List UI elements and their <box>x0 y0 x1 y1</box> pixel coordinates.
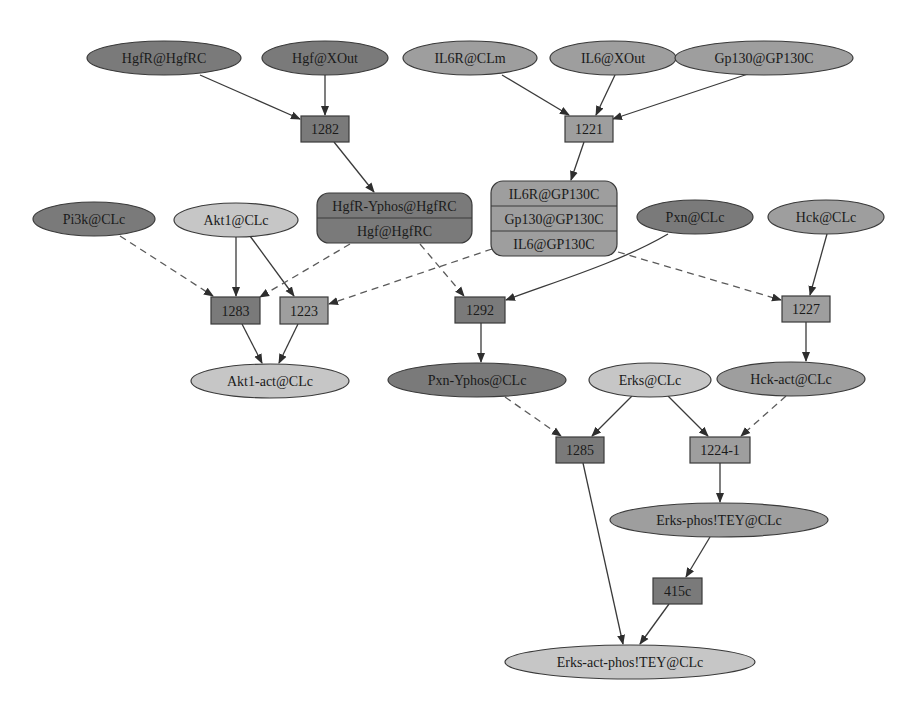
edge-erks-clc-to-1224-1 <box>668 396 708 436</box>
complex-row-label: Hgf@HgfRC <box>357 224 432 239</box>
species-node-erks-clc[interactable]: Erks@CLc <box>589 363 711 397</box>
edge-1282-to-hgfr-yphos-complex <box>334 142 374 192</box>
edge-hck-act-clc-to-1224-1 <box>741 396 786 436</box>
species-node-il6-xout[interactable]: IL6@XOut <box>550 41 676 75</box>
complex-node-hgfr-complex[interactable]: HgfR-Yphos@HgfRCHgf@HgfRC <box>317 193 472 243</box>
species-label: Erks@CLc <box>619 373 682 388</box>
species-node-hgfr-hgfrc[interactable]: HgfR@HgfRC <box>87 41 241 75</box>
edge-gp130-gp130c-to-1221 <box>613 74 748 119</box>
reaction-node-1227[interactable]: 1227 <box>782 296 830 322</box>
edge-1221-to-il6-complex <box>571 142 584 180</box>
node-layer: HgfR@HgfRCHgf@XOutIL6R@CLmIL6@XOutGp130@… <box>33 41 884 679</box>
edge-hgfr-complex-to-1292 <box>420 244 464 296</box>
species-label: HgfR@HgfRC <box>122 51 206 66</box>
reaction-node-1292[interactable]: 1292 <box>455 297 505 323</box>
species-node-hgf-xout[interactable]: Hgf@XOut <box>262 41 388 75</box>
reaction-node-1224-1[interactable]: 1224-1 <box>690 437 750 463</box>
species-node-hck-clc[interactable]: Hck@CLc <box>768 200 884 234</box>
species-node-pi3k-clc[interactable]: Pi3k@CLc <box>33 202 155 236</box>
species-label: Pxn@CLc <box>666 210 725 225</box>
edge-1223-to-akt1-act-clc <box>279 324 298 363</box>
edge-pxn-yphos-clc-to-1285 <box>505 397 561 436</box>
species-node-pxn-yphos-clc[interactable]: Pxn-Yphos@CLc <box>388 363 566 397</box>
complex-row-label: IL6R@GP130C <box>509 187 600 202</box>
species-label: Hgf@XOut <box>292 51 358 66</box>
species-node-erks-phos-tey-clc[interactable]: Erks-phos!TEY@CLc <box>610 503 828 537</box>
reaction-node-1223[interactable]: 1223 <box>280 297 328 324</box>
species-label: Erks-phos!TEY@CLc <box>656 513 782 528</box>
species-node-il6r-clm[interactable]: IL6R@CLm <box>403 41 537 75</box>
edge-pi3k-clc-to-1283 <box>120 236 213 296</box>
species-label: Hck-act@CLc <box>750 372 831 387</box>
reaction-label: 1221 <box>575 122 603 137</box>
reaction-label: 1283 <box>222 304 250 319</box>
species-label: Erks-act-phos!TEY@CLc <box>557 655 704 670</box>
species-node-erks-act-phos-tey-clc[interactable]: Erks-act-phos!TEY@CLc <box>505 645 755 679</box>
species-label: Akt1-act@CLc <box>227 374 313 389</box>
edge-il6-complex-to-1227 <box>618 252 781 300</box>
edge-1285-to-erks-act-phos-tey-clc <box>583 463 623 644</box>
edge-415c-to-erks-act-phos-tey-clc <box>640 604 669 644</box>
edge-akt1-clc-to-1223 <box>250 236 294 296</box>
species-node-hck-act-clc[interactable]: Hck-act@CLc <box>717 362 865 396</box>
species-node-pxn-clc[interactable]: Pxn@CLc <box>637 200 753 234</box>
edge-il6-complex-to-1223 <box>329 249 492 304</box>
complex-row-label: HgfR-Yphos@HgfRC <box>332 199 456 214</box>
reaction-node-1282[interactable]: 1282 <box>301 116 349 142</box>
edge-il6-xout-to-1221 <box>596 75 615 115</box>
reaction-label: 1282 <box>311 122 339 137</box>
edge-layer <box>120 74 827 644</box>
reaction-label: 1224-1 <box>700 443 740 458</box>
reaction-node-1283[interactable]: 1283 <box>211 297 260 324</box>
species-label: Akt1@CLc <box>204 213 269 228</box>
reaction-label: 1223 <box>290 304 318 319</box>
species-label: IL6@XOut <box>581 51 645 66</box>
reaction-label: 1285 <box>566 443 594 458</box>
reaction-label: 415c <box>664 584 691 599</box>
reaction-node-1221[interactable]: 1221 <box>565 116 613 142</box>
edge-erks-clc-to-1285 <box>592 396 632 436</box>
reaction-node-415c[interactable]: 415c <box>653 578 702 604</box>
species-label: Gp130@GP130C <box>714 51 813 66</box>
edge-hck-clc-to-1227 <box>810 234 827 295</box>
edge-hgfr-hgfrc-to-1282 <box>200 75 300 119</box>
complex-node-il6-complex[interactable]: IL6R@GP130CGp130@GP130CIL6@GP130C <box>491 181 617 256</box>
species-node-akt1-act-clc[interactable]: Akt1-act@CLc <box>191 364 349 398</box>
species-node-gp130-gp130c[interactable]: Gp130@GP130C <box>675 41 853 75</box>
species-node-akt1-clc[interactable]: Akt1@CLc <box>174 203 298 237</box>
edge-1283-to-akt1-act-clc <box>242 324 262 363</box>
species-label: Hck@CLc <box>796 210 856 225</box>
complex-row-label: Gp130@GP130C <box>504 212 603 227</box>
reaction-label: 1292 <box>466 303 494 318</box>
edge-il6r-clm-to-1221 <box>502 75 569 115</box>
complex-row-label: IL6@GP130C <box>513 237 594 252</box>
species-label: Pxn-Yphos@CLc <box>428 373 527 388</box>
edge-hgfr-complex-to-1283 <box>260 244 350 297</box>
species-label: Pi3k@CLc <box>63 212 126 227</box>
edge-erks-phos-tey-clc-to-415c <box>686 537 710 577</box>
reaction-node-1285[interactable]: 1285 <box>556 437 604 463</box>
species-label: IL6R@CLm <box>434 51 505 66</box>
reaction-label: 1227 <box>792 302 820 317</box>
reaction-network-diagram: HgfR@HgfRCHgf@XOutIL6R@CLmIL6@XOutGp130@… <box>0 0 915 701</box>
